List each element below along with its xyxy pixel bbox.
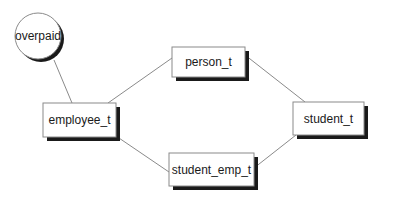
node-student-emp-t[interactable]: student_emp_t: [169, 153, 258, 190]
edge-studentemp-student: [254, 135, 296, 168]
node-label: employee_t: [48, 113, 111, 127]
node-label: person_t: [185, 55, 232, 69]
edge-employee-studentemp: [116, 136, 169, 172]
node-student-t[interactable]: student_t: [293, 102, 368, 139]
diagram-canvas: overpaid person_t employee_t student_t s…: [0, 0, 394, 210]
edge-employee-person: [108, 58, 172, 103]
node-overpaid[interactable]: overpaid: [15, 13, 64, 62]
node-employee-t[interactable]: employee_t: [43, 103, 120, 141]
node-person-t[interactable]: person_t: [172, 47, 249, 81]
edge-person-student: [245, 55, 305, 102]
node-label: overpaid: [15, 29, 61, 43]
node-label: student_t: [304, 112, 354, 126]
node-label: student_emp_t: [172, 163, 252, 177]
edge-overpaid-employee: [54, 60, 72, 103]
